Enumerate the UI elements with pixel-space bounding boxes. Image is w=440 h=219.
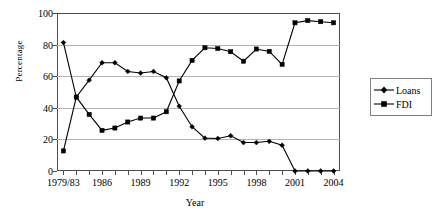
data-point-fdi (254, 47, 258, 51)
plot-area: 020406080100 1979/8319861989199219951998… (57, 13, 340, 171)
data-point-loans (151, 69, 156, 74)
y-tick-label: 80 (43, 39, 53, 50)
data-point-fdi (319, 20, 323, 24)
x-tick-mark (76, 171, 77, 175)
x-tick-label: 1986 (92, 177, 112, 188)
x-tick-mark (141, 171, 142, 175)
data-point-fdi (151, 116, 155, 120)
data-point-fdi (177, 79, 181, 83)
y-tick-label: 100 (38, 8, 53, 19)
data-point-fdi (113, 126, 117, 130)
chart-legend: Loans FDI (370, 78, 432, 116)
x-tick-mark (102, 171, 103, 175)
series-container (57, 13, 340, 171)
data-point-fdi (241, 59, 245, 63)
legend-item-loans: Loans (374, 83, 428, 97)
data-point-loans (318, 169, 323, 174)
data-point-fdi (164, 110, 168, 114)
x-tick-mark (231, 171, 232, 175)
data-point-loans (293, 169, 298, 174)
x-tick-mark (115, 171, 116, 175)
data-point-fdi (190, 58, 194, 62)
data-point-fdi (331, 21, 335, 25)
data-point-loans (280, 143, 285, 148)
data-point-loans (305, 169, 310, 174)
x-tick-mark (63, 171, 64, 175)
data-point-fdi (61, 149, 65, 153)
x-tick-label: 2001 (285, 177, 305, 188)
x-tick-mark (128, 171, 129, 175)
data-point-fdi (306, 18, 310, 22)
data-point-loans (267, 139, 272, 144)
x-tick-mark (256, 171, 257, 175)
x-tick-label: 1998 (246, 177, 266, 188)
x-tick-mark (269, 171, 270, 175)
legend-label-loans: Loans (396, 85, 420, 96)
x-tick-label: 1992 (169, 177, 189, 188)
legend-marker-diamond-icon (374, 84, 394, 96)
data-point-loans (138, 71, 143, 76)
data-point-loans (331, 169, 336, 174)
data-point-loans (254, 140, 259, 145)
data-point-fdi (293, 21, 297, 25)
data-point-fdi (126, 120, 130, 124)
data-point-loans (228, 133, 233, 138)
data-point-loans (164, 75, 169, 80)
x-tick-mark (205, 171, 206, 175)
series-line-loans (63, 43, 333, 171)
chart-figure: Percentage 020406080100 1979/83198619891… (0, 0, 440, 219)
data-point-fdi (229, 50, 233, 54)
y-tick-label: 0 (48, 166, 53, 177)
data-point-loans (241, 140, 246, 145)
x-tick-label: 1979/83 (47, 177, 80, 188)
y-axis-title: Percentage (14, 16, 24, 106)
y-tick-label: 40 (43, 102, 53, 113)
legend-item-fdi: FDI (374, 97, 428, 111)
x-tick-label: 2004 (324, 177, 344, 188)
x-axis-title: Year (50, 197, 340, 208)
data-point-fdi (216, 46, 220, 50)
x-tick-label: 1989 (131, 177, 151, 188)
data-point-fdi (139, 116, 143, 120)
x-tick-mark (153, 171, 154, 175)
legend-marker-square-icon (374, 98, 394, 110)
data-point-fdi (74, 95, 78, 99)
x-tick-mark (166, 171, 167, 175)
y-tick-mark (53, 171, 57, 172)
data-point-fdi (203, 46, 207, 50)
x-tick-mark (282, 171, 283, 175)
data-point-fdi (267, 49, 271, 53)
x-tick-label: 1995 (208, 177, 228, 188)
x-tick-mark (179, 171, 180, 175)
y-tick-label: 60 (43, 71, 53, 82)
legend-label-fdi: FDI (396, 99, 412, 110)
data-point-fdi (87, 112, 91, 116)
y-tick-label: 20 (43, 134, 53, 145)
data-point-fdi (100, 128, 104, 132)
data-point-loans (61, 40, 66, 45)
x-tick-mark (218, 171, 219, 175)
x-tick-mark (244, 171, 245, 175)
data-point-loans (215, 136, 220, 141)
data-point-fdi (280, 62, 284, 66)
x-tick-mark (192, 171, 193, 175)
x-tick-mark (89, 171, 90, 175)
